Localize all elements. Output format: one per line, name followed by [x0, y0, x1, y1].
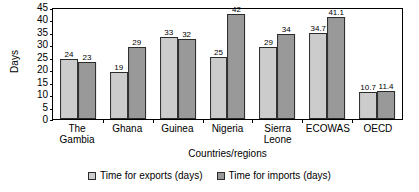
- bar-group: 2423: [53, 9, 103, 119]
- bar-value-label: 23: [82, 53, 91, 62]
- y-axis-tick-mark: [50, 120, 53, 121]
- bar-group: 10.711.4: [352, 9, 402, 119]
- y-axis-tick-mark: [50, 59, 53, 60]
- x-axis-tick-label: ECOWAS: [303, 123, 353, 145]
- y-axis-tick-label: 10: [37, 90, 48, 100]
- legend-label: Time for exports (days): [100, 170, 202, 181]
- y-axis-tick-label: 35: [37, 28, 48, 38]
- bar-pair: 2423: [60, 9, 96, 119]
- bar-value-label: 34.7: [310, 24, 326, 33]
- bar-pair: 2934: [259, 9, 295, 119]
- y-axis-tick-label: 25: [37, 53, 48, 63]
- x-axis-tick-labels: The GambiaGhanaGuineaNigeriaSierra Leone…: [52, 123, 403, 145]
- x-axis-tick-label: Sierra Leone: [253, 123, 303, 145]
- y-axis-tick-mark: [50, 34, 53, 35]
- legend-swatch-imports-icon: [217, 172, 225, 180]
- y-axis-tick-mark: [50, 109, 53, 110]
- legend-label: Time for imports (days): [229, 170, 331, 181]
- bar-value-label: 25: [214, 48, 223, 57]
- x-axis-tick-label: OECD: [353, 123, 403, 145]
- bar-imports[interactable]: 11.4: [377, 91, 395, 119]
- bar-group: 2542: [203, 9, 253, 119]
- bar-groups: 2423192933322542293434.741.110.711.4: [53, 9, 402, 119]
- x-axis-tick-label: The Gambia: [52, 123, 102, 145]
- bar-value-label: 32: [182, 30, 191, 39]
- y-axis-tick-label: 20: [37, 65, 48, 75]
- bar-value-label: 34: [282, 25, 291, 34]
- y-axis-tick-label: 40: [37, 15, 48, 25]
- bar-imports[interactable]: 34: [277, 34, 295, 119]
- bar-value-label: 10.7: [360, 83, 376, 92]
- bar-value-label: 24: [64, 50, 73, 59]
- bar-value-label: 29: [264, 38, 273, 47]
- bar-exports[interactable]: 29: [259, 47, 277, 119]
- y-axis-tick-label: 15: [37, 78, 48, 88]
- y-axis-tick-label: 45: [37, 3, 48, 13]
- bar-value-label: 11.4: [379, 82, 394, 91]
- plot-area: 2423192933322542293434.741.110.711.4: [52, 8, 403, 120]
- y-axis-tick-mark: [50, 46, 53, 47]
- bar-value-label: 29: [132, 38, 141, 47]
- bar-imports[interactable]: 41.1: [327, 17, 345, 119]
- y-axis-tick-mark: [50, 9, 53, 10]
- bar-value-label: 33: [164, 28, 173, 37]
- bar-imports[interactable]: 42: [227, 14, 245, 119]
- bar-group: 2934: [252, 9, 302, 119]
- bar-value-label: 41.1: [328, 8, 344, 17]
- bar-exports[interactable]: 34.7: [309, 33, 327, 119]
- bar-imports[interactable]: 23: [78, 62, 96, 119]
- bar-group: 34.741.1: [302, 9, 352, 119]
- legend-swatch-exports-icon: [88, 172, 96, 180]
- x-axis-title: Countries/regions: [52, 148, 403, 159]
- y-axis-title: Days: [9, 32, 20, 92]
- bar-pair: 3332: [160, 9, 196, 119]
- y-axis-tick-mark: [50, 84, 53, 85]
- bar-pair: 1929: [110, 9, 146, 119]
- bar-group: 1929: [103, 9, 153, 119]
- y-axis-tick-label: 5: [42, 103, 48, 113]
- bar-exports[interactable]: 10.7: [359, 92, 377, 119]
- legend-item[interactable]: Time for exports (days): [88, 170, 202, 181]
- x-axis-tick-label: Ghana: [102, 123, 152, 145]
- y-axis-tick-label: 0: [42, 115, 48, 125]
- bar-exports[interactable]: 33: [160, 37, 178, 119]
- chart-legend: Time for exports (days)Time for imports …: [0, 170, 419, 181]
- bar-exports[interactable]: 19: [110, 72, 128, 119]
- bar-group: 3332: [153, 9, 203, 119]
- bar-pair: 10.711.4: [359, 9, 395, 119]
- y-axis-tick-mark: [50, 96, 53, 97]
- bar-pair: 2542: [210, 9, 246, 119]
- x-axis-tick-label: Nigeria: [202, 123, 252, 145]
- y-axis-tick-labels: 051015202530354045: [22, 8, 48, 120]
- bar-exports[interactable]: 24: [60, 59, 78, 119]
- legend-item[interactable]: Time for imports (days): [217, 170, 331, 181]
- bar-pair: 34.741.1: [309, 9, 345, 119]
- bar-exports[interactable]: 25: [210, 57, 228, 119]
- y-axis-tick-label: 30: [37, 40, 48, 50]
- y-axis-tick-mark: [50, 21, 53, 22]
- bar-value-label: 19: [114, 63, 123, 72]
- bar-value-label: 42: [232, 5, 241, 14]
- x-axis-tick-label: Guinea: [152, 123, 202, 145]
- bar-imports[interactable]: 32: [178, 39, 196, 119]
- bar-chart: Days 051015202530354045 2423192933322542…: [0, 0, 419, 192]
- bar-imports[interactable]: 29: [128, 47, 146, 119]
- y-axis-tick-mark: [50, 71, 53, 72]
